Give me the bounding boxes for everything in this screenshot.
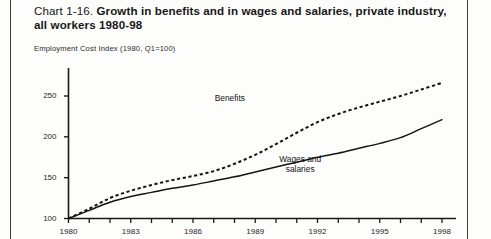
- x-tick-label: 1986: [173, 227, 213, 236]
- scanned-page: Chart 1-16. Growth in benefits and in wa…: [0, 0, 491, 239]
- series-label-benefits: Benefits: [215, 93, 245, 103]
- y-tick-label: 150: [31, 173, 57, 182]
- x-tick-label: 1995: [360, 227, 400, 236]
- wages-label-line-1: Wages and: [279, 154, 321, 164]
- y-tick-label: 100: [31, 214, 57, 223]
- x-tick-label: 1992: [298, 227, 338, 236]
- wages-label-line-2: salaries: [279, 164, 321, 174]
- series-line-wages-and-salaries: [69, 120, 443, 219]
- series-label-wages-and-salaries: Wages andsalaries: [279, 154, 321, 174]
- x-tick-label: 1980: [49, 227, 89, 236]
- y-tick-label: 200: [31, 132, 57, 141]
- x-tick-label: 1998: [422, 227, 462, 236]
- y-tick-label: 250: [31, 91, 57, 100]
- x-tick-label: 1989: [235, 227, 275, 236]
- line-chart: [0, 0, 491, 239]
- x-tick-label: 1983: [111, 227, 151, 236]
